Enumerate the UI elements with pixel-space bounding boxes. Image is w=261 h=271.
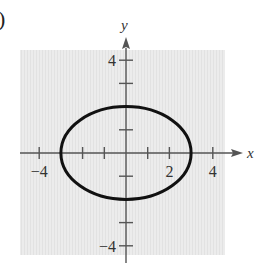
ellipse-chart: x y −4244−4 — [0, 0, 261, 271]
y-axis-label: y — [119, 17, 128, 33]
y-tick-label: −4 — [99, 238, 116, 255]
x-axis-label: x — [246, 145, 254, 161]
x-tick-label: 4 — [209, 163, 217, 180]
x-tick-label: −4 — [31, 163, 48, 180]
y-tick-label: 4 — [108, 52, 116, 69]
y-axis-arrow-icon — [122, 37, 130, 49]
x-tick-label: 2 — [165, 163, 173, 180]
